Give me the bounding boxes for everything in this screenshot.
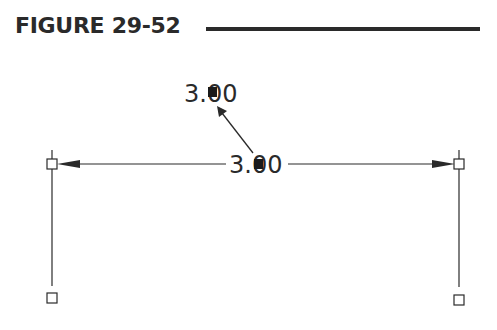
right-origin-grip-icon[interactable] (454, 295, 464, 305)
moved-text-grip-icon[interactable] (208, 87, 217, 97)
left-origin-grip-icon[interactable] (47, 293, 57, 303)
left-arrowhead-icon (57, 160, 80, 168)
text-grip-icon[interactable] (254, 159, 263, 169)
right-dimline-grip-icon[interactable] (454, 159, 464, 169)
dimension-diagram: 3.00 3.00 (0, 0, 497, 330)
move-leader-line (222, 113, 253, 153)
left-dimline-grip-icon[interactable] (47, 159, 57, 169)
right-arrowhead-icon (432, 160, 455, 168)
